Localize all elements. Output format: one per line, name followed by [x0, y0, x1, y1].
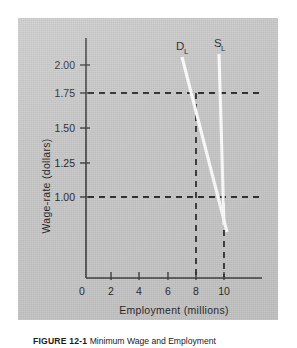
y-tick-label-1.50: 1.50: [55, 122, 76, 134]
supply-curve-label-subscript: L: [221, 44, 226, 53]
y-tick-label-1.75: 1.75: [55, 87, 76, 99]
x-tick-label-10: 10: [218, 285, 230, 297]
figure-caption-number: FIGURE 12-1: [33, 336, 87, 346]
curve-label-group: D L S L: [176, 37, 226, 56]
chart-panel: 2.00 1.75 1.50 1.25 1.00 0 2 4 6 8 10: [18, 18, 278, 320]
x-tick-label-2: 2: [108, 285, 114, 297]
series-group: [182, 54, 227, 232]
axes-group: [86, 38, 262, 278]
y-tick-label-1.00: 1.00: [55, 191, 76, 203]
annotation-group: [88, 93, 262, 277]
x-tick-label-6: 6: [165, 285, 171, 297]
x-axis-title: Employment (millions): [119, 304, 229, 316]
y-tick-label-group: 2.00 1.75 1.50 1.25 1.00: [55, 59, 76, 203]
y-axis-title: Wage-rate (dollars): [40, 138, 52, 233]
x-tick-label-0: 0: [79, 285, 85, 297]
x-tick-label-8: 8: [193, 285, 199, 297]
figure-caption: FIGURE 12-1 Minimum Wage and Employment: [33, 336, 283, 346]
figure-root: 2.00 1.75 1.50 1.25 1.00 0 2 4 6 8 10: [0, 0, 297, 348]
y-tick-group: [80, 65, 90, 197]
figure-caption-text: Minimum Wage and Employment: [90, 336, 216, 346]
plot-svg: 2.00 1.75 1.50 1.25 1.00 0 2 4 6 8 10: [18, 18, 278, 320]
y-tick-label-2.00: 2.00: [55, 59, 76, 71]
y-tick-label-1.25: 1.25: [55, 157, 76, 169]
x-tick-label-group: 0 2 4 6 8 10: [79, 285, 230, 297]
demand-curve-label-subscript: L: [184, 47, 189, 56]
x-tick-label-4: 4: [136, 285, 142, 297]
